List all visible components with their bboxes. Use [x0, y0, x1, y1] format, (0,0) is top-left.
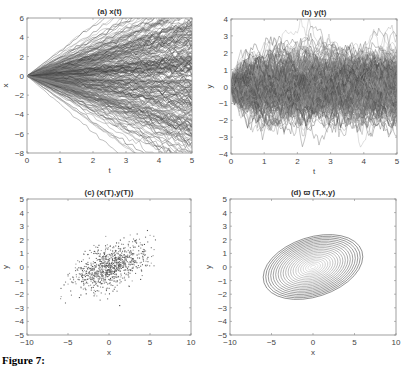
y-tick-label: 4 [224, 15, 229, 24]
y-tick-label: −2 [218, 290, 228, 299]
x-tick-label: 4 [362, 157, 367, 166]
y-tick-label: 3 [224, 32, 229, 41]
x-tick-label: 0 [229, 157, 234, 166]
y-tick-label: −4 [15, 110, 25, 119]
y-tick-label: −3 [219, 133, 229, 142]
y-tick-label: −2 [15, 91, 25, 100]
x-tick-label: 5 [352, 338, 357, 347]
caption-prefix: Figure 7: [2, 354, 45, 366]
x-axis-label: x [311, 348, 315, 357]
x-tick-label: 4 [157, 156, 162, 165]
chart-title: (d) ϖ (T,x,y) [291, 188, 335, 197]
y-axis-label: y [205, 85, 214, 89]
y-tick-label: 2 [224, 49, 229, 58]
y-tick-label: −1 [15, 277, 25, 286]
x-tick-label: 2 [91, 156, 96, 165]
y-tick-label: −8 [15, 149, 25, 158]
x-tick-label: 3 [124, 156, 129, 165]
y-tick-label: 4 [20, 33, 25, 42]
y-tick-label: −5 [15, 331, 25, 340]
y-tick-label: 0 [223, 263, 228, 272]
plot-area [60, 230, 156, 306]
chart-panel-b: 012345−4−3−2−101234(b) y(t)ty [205, 8, 400, 176]
y-axis-label: y [204, 265, 213, 269]
y-tick-label: 2 [20, 53, 25, 62]
y-tick-label: −2 [219, 116, 229, 125]
x-tick-label: 1 [58, 156, 63, 165]
chart-panel-d: −10−50510−5−4−3−2−1012345(d) ϖ (T,x,y)xy [204, 188, 401, 357]
y-tick-label: 4 [223, 209, 228, 218]
x-tick-label: 10 [392, 338, 401, 347]
x-tick-label: 0 [311, 338, 316, 347]
y-tick-label: −3 [218, 304, 228, 313]
y-tick-label: −4 [218, 317, 228, 326]
y-tick-label: −1 [218, 277, 228, 286]
y-tick-label: −4 [15, 317, 25, 326]
x-tick-label: −5 [267, 338, 277, 347]
y-axis-label: x [1, 84, 10, 88]
x-tick-label: 10 [187, 338, 196, 347]
y-tick-label: 0 [20, 263, 25, 272]
chart-title: (a) x(t) [97, 7, 122, 16]
x-tick-label: 0 [25, 156, 30, 165]
chart-panel-c: −10−50510−5−4−3−2−1012345(c) (x(T),y(T))… [1, 188, 196, 357]
y-tick-label: 2 [20, 236, 25, 245]
y-tick-label: 3 [20, 222, 25, 231]
x-tick-label: 5 [190, 156, 195, 165]
x-tick-label: −5 [63, 338, 73, 347]
plot-area [255, 223, 371, 311]
y-axis-label: y [1, 265, 10, 269]
figure: 012345−8−6−4−20246(a) x(t)tx012345−4−3−2… [0, 0, 408, 368]
x-tick-label: 1 [262, 157, 267, 166]
y-tick-label: −2 [15, 290, 25, 299]
y-tick-label: −6 [15, 130, 25, 139]
x-tick-label: 3 [328, 157, 333, 166]
x-tick-label: 2 [295, 157, 300, 166]
y-tick-label: 4 [20, 209, 25, 218]
y-tick-label: 5 [223, 195, 228, 204]
x-axis-label: t [313, 167, 316, 176]
y-tick-label: 2 [223, 236, 228, 245]
chart-title: (c) (x(T),y(T)) [85, 188, 134, 197]
y-tick-label: 1 [224, 66, 229, 75]
x-axis-label: x [107, 348, 111, 357]
y-tick-label: 1 [223, 249, 228, 258]
y-tick-label: −5 [218, 331, 228, 340]
figure-caption: Figure 7: [2, 354, 45, 366]
y-tick-label: −3 [15, 304, 25, 313]
chart-title: (b) y(t) [302, 8, 327, 17]
y-tick-label: 3 [223, 222, 228, 231]
x-tick-label: 0 [107, 338, 112, 347]
plot-area [231, 16, 397, 147]
y-tick-label: −1 [219, 99, 229, 108]
x-tick-label: 5 [395, 157, 400, 166]
y-tick-label: 1 [20, 249, 25, 258]
y-tick-label: 0 [224, 83, 229, 92]
y-tick-label: 0 [20, 72, 25, 81]
x-tick-label: 5 [148, 338, 153, 347]
x-axis-label: t [108, 166, 111, 175]
y-tick-label: 6 [20, 14, 25, 23]
y-tick-label: 5 [20, 195, 25, 204]
axes-box [230, 199, 396, 335]
y-tick-label: −4 [219, 150, 229, 159]
